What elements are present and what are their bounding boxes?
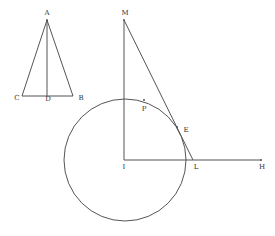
label-P: P xyxy=(142,105,147,113)
triangle-figure: A C D B xyxy=(14,9,83,103)
point-P xyxy=(143,99,145,101)
label-L: L xyxy=(194,163,199,171)
geometry-diagram: A C D B M P E I L H xyxy=(0,0,275,236)
label-D: D xyxy=(45,95,51,103)
point-E xyxy=(176,126,178,128)
point-A xyxy=(46,19,48,21)
point-H xyxy=(260,159,262,161)
segment-AB xyxy=(47,20,73,96)
circle-figure: M P E I L H xyxy=(64,9,265,221)
label-A: A xyxy=(43,9,50,17)
label-M: M xyxy=(121,9,128,17)
label-E: E xyxy=(183,126,188,134)
segment-ML-tangent xyxy=(124,20,193,160)
label-B: B xyxy=(78,94,83,102)
point-M xyxy=(123,19,125,21)
label-I: I xyxy=(123,163,126,171)
label-H: H xyxy=(259,163,265,171)
segment-AC xyxy=(22,20,47,96)
label-C: C xyxy=(14,94,19,102)
